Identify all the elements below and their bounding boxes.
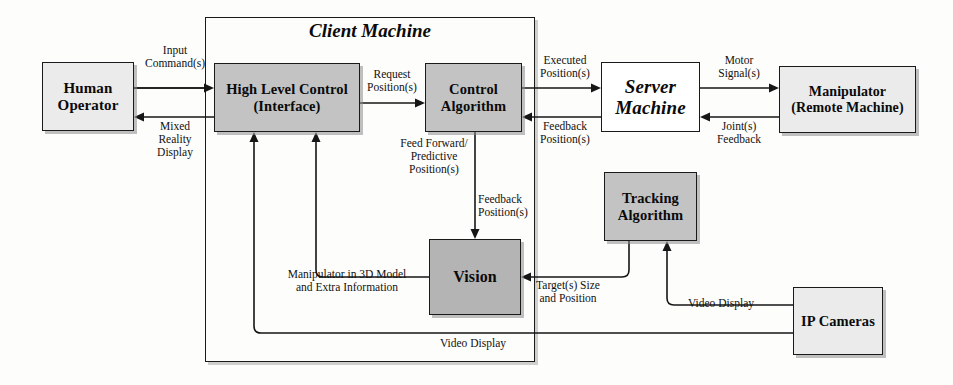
node-control-algorithm-label: Control Algorithm bbox=[426, 81, 521, 113]
edge-label-video-display-client: Video Display bbox=[431, 337, 515, 350]
edge-label-joints-feedback: Joint(s) Feedback bbox=[706, 120, 772, 146]
node-ip-cameras-label: IP Cameras bbox=[798, 313, 878, 329]
node-high-level-control[interactable]: High Level Control (Interface) bbox=[214, 63, 360, 132]
node-vision-label: Vision bbox=[450, 268, 500, 286]
node-human-operator-label: Human Operator bbox=[43, 80, 133, 114]
edge-label-motor-signals: Motor Signal(s) bbox=[706, 54, 772, 80]
node-high-level-control-label: High Level Control (Interface) bbox=[215, 81, 359, 113]
diagram-canvas: Client Machine bbox=[0, 0, 953, 385]
node-vision[interactable]: Vision bbox=[429, 239, 521, 315]
edge-label-executed-positions: Executed Position(s) bbox=[531, 54, 599, 80]
wire-executed-positions bbox=[522, 84, 601, 93]
wire-video-display-cameras bbox=[663, 241, 794, 305]
edge-label-mixed-reality: Mixed Reality Display bbox=[144, 120, 206, 159]
node-manipulator-label: Manipulator (Remote Machine) bbox=[780, 84, 915, 115]
edge-label-request-positions: Request Position(s) bbox=[361, 68, 423, 94]
edge-label-input-commands: Input Command(s) bbox=[140, 44, 210, 70]
edge-label-video-display-cameras: Video Display bbox=[679, 297, 763, 310]
node-tracking-algorithm-label: Tracking Algorithm bbox=[605, 190, 696, 222]
node-ip-cameras[interactable]: IP Cameras bbox=[793, 287, 883, 355]
node-server-machine-label: Server Machine bbox=[602, 76, 699, 119]
node-manipulator[interactable]: Manipulator (Remote Machine) bbox=[779, 66, 916, 133]
node-tracking-algorithm[interactable]: Tracking Algorithm bbox=[604, 172, 697, 241]
edge-label-feedback-positions-server: Feedback Position(s) bbox=[531, 120, 599, 146]
edge-label-targets-size: Target(s) Size and Position bbox=[528, 279, 608, 305]
node-server-machine[interactable]: Server Machine bbox=[601, 62, 700, 132]
wire-input-commands bbox=[134, 84, 214, 93]
node-human-operator[interactable]: Human Operator bbox=[42, 62, 134, 131]
wire-targets-size bbox=[521, 241, 629, 282]
edge-label-feedback-positions-vision: Feedback Position(s) bbox=[478, 193, 544, 219]
edge-label-feed-forward: Feed Forward/ Predictive Position(s) bbox=[396, 137, 472, 176]
wire-request-positions bbox=[360, 99, 425, 108]
wire-motor-signals bbox=[700, 84, 779, 93]
node-control-algorithm[interactable]: Control Algorithm bbox=[425, 63, 522, 132]
edge-label-manipulator-3d: Manipulator in 3D Model and Extra Inform… bbox=[272, 268, 422, 294]
